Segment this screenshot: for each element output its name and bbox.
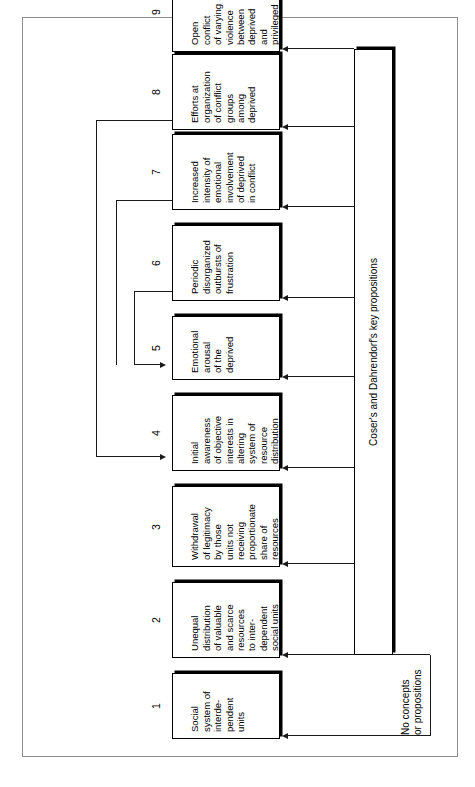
spine-riser-8	[288, 126, 354, 127]
flow-box-2[interactable]: Unequal distribution of valuable and sca…	[172, 582, 280, 658]
flow-box-4[interactable]: Initial awareness of objective interests…	[172, 395, 280, 471]
spine-arrow-7	[282, 205, 288, 211]
flow-box-5[interactable]: Emotional arousal of the deprived	[172, 316, 280, 380]
page-frame: Social system of interde- pendent units …	[22, 17, 458, 757]
key-propositions-label: Coser's and Dahrendorf's key proposition…	[368, 258, 379, 446]
spine-riser-3	[288, 563, 354, 564]
flow-box-7-number: 7	[150, 164, 162, 180]
spine-riser-2	[288, 654, 354, 655]
spine-arrow-2	[282, 653, 288, 659]
flow-box-2-text: Unequal distribution of valuable and sca…	[189, 604, 280, 651]
flow-box-1-text: Social system of interde- pendent units	[189, 691, 246, 732]
flow-box-9[interactable]: Open conflict of varying violence betwee…	[172, 0, 280, 52]
flow-box-1[interactable]: Social system of interde- pendent units	[172, 673, 280, 739]
flow-box-3[interactable]: Withdrawal of legitimacy by those units …	[172, 486, 280, 567]
spine-arrow-4	[282, 466, 288, 472]
spine-riser-6	[288, 297, 354, 298]
note-riser-1	[288, 735, 430, 736]
feedback-7-5-span	[116, 200, 117, 365]
flow-box-3-number: 3	[150, 519, 162, 535]
flow-box-5-number: 5	[150, 340, 162, 356]
key-propositions-bracket[interactable]: Coser's and Dahrendorf's key proposition…	[354, 49, 393, 655]
feedback-8-4-arrow	[160, 455, 166, 461]
spine-riser-4	[288, 467, 354, 468]
flow-box-9-number: 9	[150, 4, 162, 20]
flow-box-7-text: Increased intensity of emotional involve…	[189, 152, 257, 203]
flow-box-6[interactable]: Periodic disorganized outbursts of frust…	[172, 225, 280, 301]
spine-riser-5	[288, 376, 354, 377]
spine-arrow-6	[282, 296, 288, 302]
feedback-6-4-arrow	[160, 363, 166, 369]
note-arrow-1	[282, 734, 288, 740]
flow-box-4-text: Initial awareness of objective interests…	[189, 416, 280, 464]
flow-box-6-number: 6	[150, 255, 162, 271]
flow-box-8-text: Efforts at organization of conflict grou…	[189, 71, 257, 123]
flow-box-3-text: Withdrawal of legitimacy by those units …	[189, 504, 280, 560]
flow-box-7[interactable]: Increased intensity of emotional involve…	[172, 134, 280, 210]
flow-box-9-text: Open conflict of varying violence betwee…	[189, 4, 280, 45]
tick-mark-7	[142, 200, 160, 201]
flow-box-1-number: 1	[150, 698, 162, 714]
flow-box-4-number: 4	[150, 425, 162, 441]
spine-arrow-3	[282, 562, 288, 568]
no-concepts-note: No concepts or propositions	[400, 645, 425, 735]
spine-riser-7	[288, 206, 354, 207]
spine-arrow-8	[282, 125, 288, 131]
flowchart-canvas: Social system of interde- pendent units …	[22, 17, 458, 757]
feedback-6-4-span	[134, 291, 135, 365]
feedback-8-4-span	[96, 120, 97, 457]
spine-riser-9	[288, 48, 354, 49]
flow-box-8-number: 8	[150, 84, 162, 100]
spine-arrow-5	[282, 375, 288, 381]
flow-box-6-text: Periodic disorganized outbursts of frust…	[189, 240, 234, 294]
feedback-8-4-start	[96, 120, 172, 121]
feedback-6-4-drop	[134, 364, 160, 365]
feedback-8-4-drop	[96, 456, 160, 457]
flow-box-5-text: Emotional arousal of the deprived	[189, 331, 234, 373]
spine-arrow-9	[282, 47, 288, 53]
note-connector-line	[430, 655, 431, 736]
tick-mark-6	[142, 291, 160, 292]
flow-box-8[interactable]: Efforts at organization of conflict grou…	[172, 54, 280, 130]
flow-box-2-number: 2	[150, 612, 162, 628]
